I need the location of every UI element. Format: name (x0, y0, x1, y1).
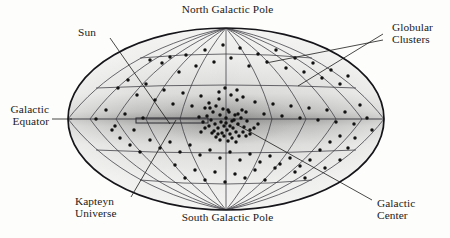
globular-cluster-point (207, 124, 211, 128)
globular-cluster-point (265, 60, 269, 64)
globular-cluster-point (228, 132, 232, 136)
label-south-galactic-pole: South Galactic Pole (170, 212, 285, 224)
globular-cluster-point (274, 48, 278, 52)
globular-cluster-point (346, 146, 350, 150)
globular-cluster-point (213, 170, 217, 174)
globular-cluster-point (132, 128, 136, 132)
globular-cluster-point (353, 136, 357, 140)
globular-cluster-point (329, 68, 333, 72)
globular-cluster-point (236, 112, 240, 116)
projection-body (68, 28, 384, 210)
globular-cluster-point (307, 106, 311, 110)
globular-cluster-point (116, 86, 120, 90)
globular-cluster-point (263, 178, 267, 182)
globular-cluster-point (352, 122, 356, 126)
globular-cluster-point (184, 53, 188, 57)
globular-cluster-point (273, 166, 277, 170)
globular-cluster-point (203, 126, 207, 130)
globular-cluster-point (338, 82, 342, 86)
globular-cluster-point (123, 112, 127, 116)
globular-cluster-point (198, 153, 202, 157)
label-galactic-equator-line2: Equator (0, 116, 49, 128)
globular-cluster-point (370, 128, 374, 132)
label-globular-clusters-line2: Clusters (392, 34, 430, 46)
globular-cluster-point (325, 108, 329, 112)
globular-cluster-point (284, 66, 288, 70)
globular-cluster-point (224, 121, 228, 125)
globular-cluster-point (328, 140, 332, 144)
globular-cluster-point (110, 128, 114, 132)
globular-cluster-point (311, 61, 315, 65)
globular-cluster-point (323, 166, 327, 170)
label-kapteyn-universe-line2: Universe (75, 208, 117, 220)
globular-cluster-point (193, 168, 197, 172)
globular-cluster-point (253, 100, 257, 104)
globular-cluster-point (253, 168, 257, 172)
globular-cluster-point (229, 93, 233, 97)
globular-cluster-point (203, 178, 207, 182)
globular-cluster-point (118, 136, 122, 140)
globular-cluster-point (239, 116, 243, 120)
globular-cluster-point (213, 122, 217, 126)
globular-cluster-point (237, 134, 241, 138)
globular-cluster-point (240, 108, 244, 112)
globular-cluster-point (183, 176, 187, 180)
globular-cluster-point (224, 116, 228, 120)
globular-cluster-point (148, 58, 152, 62)
globular-cluster-point (214, 135, 218, 139)
globular-cluster-point (197, 115, 201, 119)
globular-cluster-point (238, 158, 242, 162)
globular-cluster-point (212, 129, 216, 133)
globular-cluster-point (232, 118, 236, 122)
globular-cluster-point (234, 140, 238, 144)
globular-cluster-point (268, 154, 272, 158)
globular-cluster-point (160, 61, 164, 65)
globular-cluster-point (320, 76, 324, 80)
globular-cluster-point (148, 138, 152, 142)
globular-cluster-point (209, 118, 213, 122)
globular-cluster-point (181, 91, 185, 95)
globular-cluster-point (190, 104, 194, 108)
globular-cluster-point (201, 120, 205, 124)
globular-cluster-point (228, 150, 232, 154)
globular-cluster-point (244, 110, 248, 114)
globular-cluster-point (208, 148, 212, 152)
globular-cluster-point (308, 158, 312, 162)
globular-cluster-point (104, 108, 108, 112)
globular-cluster-point (222, 134, 226, 138)
globular-cluster-point (194, 64, 198, 68)
globular-cluster-point (222, 124, 226, 128)
globular-cluster-point (241, 95, 245, 99)
globular-cluster-point (218, 156, 222, 160)
globular-cluster-point (278, 162, 282, 166)
globular-cluster-point (234, 130, 238, 134)
globular-cluster-point (199, 130, 203, 134)
globular-cluster-point (271, 102, 275, 106)
globular-cluster-point (293, 170, 297, 174)
globular-cluster-point (280, 114, 284, 118)
globular-cluster-point (138, 150, 142, 154)
globular-cluster-point (338, 134, 342, 138)
label-galactic-center-line2: Center (377, 210, 408, 222)
globular-cluster-point (358, 103, 362, 107)
globular-cluster-point (243, 176, 247, 180)
label-north-galactic-pole: North Galactic Pole (170, 4, 285, 16)
globular-cluster-point (229, 56, 233, 60)
globular-cluster-point (230, 136, 234, 140)
globular-cluster-point (248, 152, 252, 156)
globular-cluster-point (199, 94, 203, 98)
globular-cluster-point (178, 150, 182, 154)
globular-cluster-point (235, 98, 239, 102)
globular-cluster-point (233, 113, 237, 117)
label-sun: Sun (78, 27, 96, 39)
globular-cluster-point (126, 78, 130, 82)
globular-cluster-point (289, 104, 293, 108)
globular-cluster-point (235, 88, 239, 92)
globular-cluster-point (177, 70, 181, 74)
globular-cluster-point (211, 110, 215, 114)
globular-cluster-point (228, 124, 232, 128)
globular-cluster-point (303, 176, 307, 180)
globular-cluster-point (208, 106, 212, 110)
globular-cluster-point (241, 130, 245, 134)
globular-cluster-point (216, 126, 220, 130)
